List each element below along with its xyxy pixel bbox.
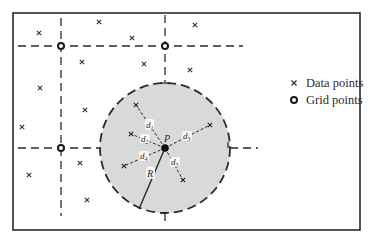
data-point-icon bbox=[188, 68, 192, 72]
data-point-icon bbox=[83, 108, 87, 112]
legend-label-data-points: Data points bbox=[306, 76, 363, 90]
label-radius: R bbox=[146, 168, 153, 179]
legend-item-data-points: Data points bbox=[288, 76, 363, 90]
data-point-icon bbox=[27, 173, 31, 177]
point-p-icon bbox=[162, 145, 168, 151]
data-point-icon bbox=[37, 31, 41, 35]
data-point-icon bbox=[288, 79, 300, 87]
legend-label-grid-points: Grid points bbox=[306, 93, 363, 107]
interpolation-diagram: d1 d2 d3 d4 d5 R P bbox=[0, 0, 370, 241]
data-point-icon bbox=[130, 36, 134, 40]
label-center-p: P bbox=[163, 133, 170, 144]
grid-point-icon bbox=[162, 43, 168, 49]
data-point-icon bbox=[80, 60, 84, 64]
data-point-icon bbox=[78, 161, 82, 165]
data-point-icon bbox=[97, 20, 101, 24]
data-point-icon bbox=[38, 86, 42, 90]
data-point-icon bbox=[193, 23, 197, 27]
legend-item-grid-points: Grid points bbox=[288, 93, 363, 107]
data-point-icon bbox=[20, 125, 24, 129]
grid-point-icon bbox=[58, 145, 64, 151]
data-point-icon bbox=[142, 62, 146, 66]
grid-point-icon bbox=[58, 43, 64, 49]
data-point-icon bbox=[85, 198, 89, 202]
grid-point-icon bbox=[288, 95, 300, 105]
diagram-canvas: d1 d2 d3 d4 d5 R P Data points Gr bbox=[0, 0, 370, 241]
